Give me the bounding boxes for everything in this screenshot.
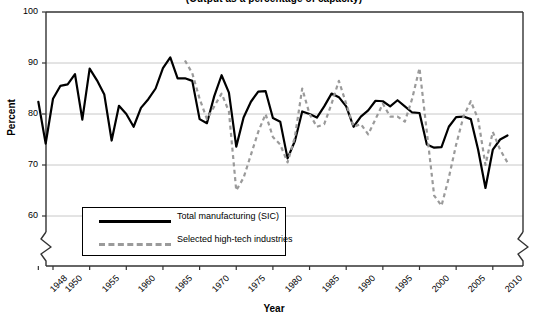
- chart-root: (Output as a percentage of capacity) Per…: [0, 0, 548, 320]
- legend-item-high-tech: Selected high-tech industries: [83, 234, 287, 254]
- chart-legend: Total manufacturing (SIC) Selected high-…: [82, 207, 286, 256]
- y-tick-label-100: 100: [10, 6, 38, 16]
- y-tick-label-90: 90: [10, 57, 38, 67]
- legend-swatch-solid: [99, 220, 171, 223]
- legend-item-total-manufacturing: Total manufacturing (SIC): [83, 211, 287, 231]
- legend-swatch-dashed: [99, 243, 171, 246]
- legend-label-total-manufacturing: Total manufacturing (SIC): [177, 211, 279, 221]
- y-tick-label-60: 60: [10, 210, 38, 220]
- plot-area: [0, 0, 548, 320]
- series-total-manufacturing-line: [38, 57, 507, 188]
- legend-label-high-tech: Selected high-tech industries: [177, 234, 293, 244]
- y-tick-label-70: 70: [10, 159, 38, 169]
- y-tick-label-80: 80: [10, 108, 38, 118]
